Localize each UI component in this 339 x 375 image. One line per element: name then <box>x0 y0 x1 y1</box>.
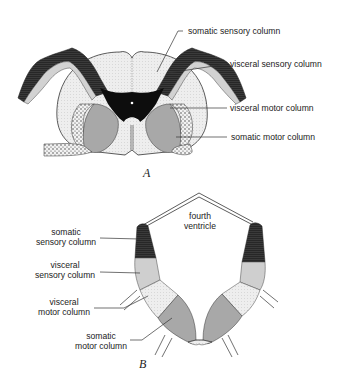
caption-b: B <box>139 357 147 371</box>
label-b-visceral-motor-line2: motor column <box>38 307 90 317</box>
label-b-somatic-motor-line1: somatic <box>86 331 116 341</box>
central-canal <box>131 102 134 105</box>
label-b-somatic-motor-line2: motor column <box>75 341 127 351</box>
right-wall <box>203 223 278 357</box>
label-a-visceral-sensory-column: visceral sensory column <box>230 59 322 69</box>
leader-b-visceral-motor <box>94 296 148 308</box>
somatic-sensory-region-left <box>135 224 156 258</box>
figure-a-spinal-cord-section: somatic sensory column visceral sensory … <box>18 26 322 180</box>
label-a-somatic-sensory-column: somatic sensory column <box>188 26 280 36</box>
left-wall <box>120 224 196 357</box>
somatic-sensory-region-right <box>242 223 265 262</box>
label-b-visceral-motor-line1: visceral <box>49 297 78 307</box>
leader-b-somatic-sensory <box>100 238 140 239</box>
label-a-visceral-motor-column: visceral motor column <box>230 103 314 113</box>
figure-b-hindbrain-section: fourth ventricle somatic sensory column … <box>35 193 278 371</box>
embryonic-neural-tube-diagram: somatic sensory column visceral sensory … <box>0 0 339 375</box>
label-a-somatic-motor-column: somatic motor column <box>231 132 315 142</box>
label-b-visceral-sensory-line1: visceral <box>50 260 79 270</box>
label-b-somatic-sensory-line1: somatic <box>51 227 81 237</box>
label-b-visceral-sensory-line2: sensory column <box>35 270 95 280</box>
label-b-somatic-sensory-line2: sensory column <box>36 237 96 247</box>
caption-a: A <box>142 166 151 180</box>
leader-b-visceral-sensory <box>100 272 140 273</box>
label-fourth-ventricle-line2: ventricle <box>184 221 216 231</box>
label-fourth-ventricle-line1: fourth <box>189 211 211 221</box>
